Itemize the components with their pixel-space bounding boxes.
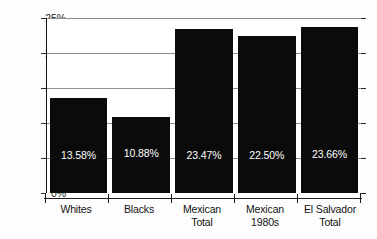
plot-area: 13.58% 10.88% 23.47% 22.50% 23.66%	[46, 18, 361, 193]
bar-chart: 25% 20% 15% 10% 5% 0% 13.58% 10.88% 23.4…	[0, 0, 377, 239]
x-axis-line	[44, 198, 362, 199]
x-axis-label-line: El Salvador	[294, 203, 366, 216]
x-axis-tick-mark	[234, 194, 235, 203]
bar-whites: 13.58%	[50, 98, 108, 193]
x-axis-label-line: 1980s	[233, 216, 297, 229]
x-axis-tick-mark	[297, 194, 298, 203]
x-axis-label-whites: Whites	[44, 203, 108, 216]
bar-mexican-1980s: 22.50%	[238, 36, 296, 194]
bar-value-label: 22.50%	[238, 150, 296, 161]
bar-value-label: 10.88%	[112, 148, 170, 159]
x-axis-label-mexican-total: Mexican Total	[170, 203, 234, 229]
x-axis-label-line: Total	[294, 216, 366, 229]
bar-el-salvador-total: 23.66%	[301, 27, 359, 193]
x-axis-label-blacks: Blacks	[107, 203, 171, 216]
gridline-25	[47, 18, 361, 19]
bar-blacks: 10.88%	[112, 117, 170, 193]
x-axis-label-line: Blacks	[107, 203, 171, 216]
x-axis-tick-mark	[360, 194, 361, 203]
x-axis-label-line: Mexican	[170, 203, 234, 216]
bar-value-label: 23.47%	[175, 150, 233, 161]
x-axis-label-line: Whites	[44, 203, 108, 216]
x-axis-tick-mark	[45, 194, 46, 203]
x-axis-tick-mark	[171, 194, 172, 203]
x-axis-label-mexican-1980s: Mexican 1980s	[233, 203, 297, 229]
x-axis-tick-mark	[108, 194, 109, 203]
bar-mexican-total: 23.47%	[175, 29, 233, 193]
bar-value-label: 23.66%	[301, 149, 359, 160]
bar-value-label: 13.58%	[50, 150, 108, 161]
x-axis-label-el-salvador-total: El Salvador Total	[294, 203, 366, 229]
x-axis-label-line: Total	[170, 216, 234, 229]
x-axis-label-line: Mexican	[233, 203, 297, 216]
